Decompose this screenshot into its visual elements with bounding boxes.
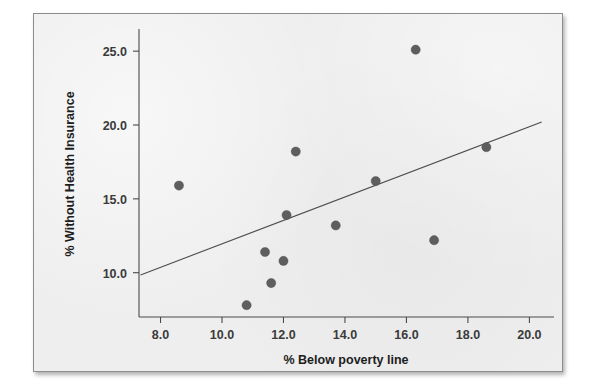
scatter-plot-figure: 8.0 10.0 12.0 14.0 16.0 18.0 20.0 10.0 1… — [0, 0, 592, 390]
data-point — [291, 147, 300, 156]
y-axis-title: % Without Health Insurance — [63, 91, 77, 256]
y-axis-ticks — [133, 51, 139, 273]
data-point — [282, 210, 291, 219]
data-point — [242, 301, 251, 310]
x-tick-label: 8.0 — [152, 328, 169, 342]
x-tick-label: 16.0 — [394, 328, 418, 342]
figure-panel: 8.0 10.0 12.0 14.0 16.0 18.0 20.0 10.0 1… — [33, 13, 563, 372]
x-tick-label: 20.0 — [517, 328, 541, 342]
x-tick-label: 10.0 — [210, 328, 234, 342]
data-points-group — [174, 45, 491, 310]
data-point — [482, 143, 491, 152]
plot-canvas: 8.0 10.0 12.0 14.0 16.0 18.0 20.0 10.0 1… — [34, 14, 564, 373]
data-point — [430, 236, 439, 245]
x-tick-label: 18.0 — [456, 328, 480, 342]
data-point — [331, 221, 340, 230]
x-axis-title: % Below poverty line — [283, 353, 408, 367]
y-tick-label: 20.0 — [103, 119, 127, 133]
data-point — [267, 278, 276, 287]
data-point — [174, 181, 183, 190]
x-tick-label: 14.0 — [333, 328, 357, 342]
data-point — [260, 247, 269, 256]
data-point — [411, 45, 420, 54]
x-axis-ticks — [161, 317, 530, 323]
data-point — [279, 256, 288, 265]
data-point — [371, 177, 380, 186]
x-tick-labels: 8.0 10.0 12.0 14.0 16.0 18.0 20.0 — [152, 328, 542, 342]
x-tick-label: 12.0 — [271, 328, 295, 342]
regression-line — [141, 122, 542, 275]
y-tick-label: 25.0 — [103, 45, 127, 59]
y-tick-label: 10.0 — [103, 267, 127, 281]
y-tick-labels: 10.0 15.0 20.0 25.0 — [103, 45, 127, 281]
y-tick-label: 15.0 — [103, 193, 127, 207]
